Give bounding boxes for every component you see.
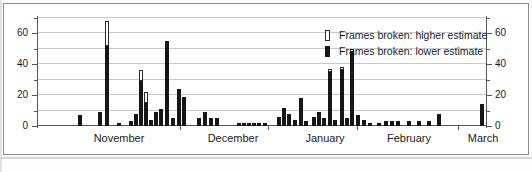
bar-lower-estimate <box>277 117 281 126</box>
month-boundary-tick <box>458 126 459 130</box>
bar-lower-estimate <box>209 118 213 126</box>
month-boundary-tick <box>180 126 181 130</box>
bar-lower-estimate <box>345 118 349 126</box>
bar-lower-estimate <box>257 123 261 126</box>
bar-lower-estimate <box>362 120 366 126</box>
bar-lower-estimate <box>105 46 109 126</box>
bar-lower-estimate <box>293 120 297 126</box>
bar-lower-estimate <box>317 112 321 126</box>
bar-lower-estimate <box>139 81 143 126</box>
bar-lower-estimate <box>182 97 186 126</box>
bar-lower-estimate <box>340 70 344 126</box>
bar-lower-estimate <box>287 114 291 126</box>
y-tick <box>487 111 490 112</box>
y-tick <box>32 126 37 127</box>
y-tick <box>32 95 37 96</box>
bar-lower-estimate <box>427 121 431 126</box>
bar-lower-estimate <box>390 121 394 126</box>
month-label-february: February <box>387 132 431 144</box>
bar-lower-estimate <box>159 109 163 126</box>
bar-lower-estimate <box>203 112 207 126</box>
bar-lower-estimate <box>215 118 219 126</box>
month-label-march: March <box>468 132 499 144</box>
month-boundary-tick <box>268 126 269 130</box>
bar-lower-estimate <box>247 123 251 126</box>
bar-lower-estimate <box>144 103 148 126</box>
bar-lower-estimate <box>165 41 169 126</box>
y-tick <box>487 18 490 19</box>
bar-lower-estimate <box>304 121 308 126</box>
bar-lower-estimate <box>98 112 102 126</box>
figure-bottom-edge <box>0 157 532 159</box>
legend-item-lower: Frames broken: lower estimate <box>325 44 500 58</box>
bar-lower-estimate <box>437 114 441 126</box>
bar-lower-estimate <box>242 123 246 126</box>
month-boundary-tick <box>357 126 358 130</box>
bar-lower-estimate <box>134 114 138 126</box>
bar-lower-estimate <box>333 120 337 126</box>
bar-higher-estimate <box>144 92 148 103</box>
bar-lower-estimate <box>154 112 158 126</box>
y-tick-label: 20 <box>495 90 506 100</box>
bar-higher-estimate <box>139 70 143 81</box>
y-tick-label: 40 <box>17 59 28 69</box>
gridline <box>37 17 486 18</box>
chart-figure: 00202040406060 NovemberDecemberJanuaryFe… <box>0 0 532 172</box>
bar-lower-estimate <box>328 72 332 126</box>
y-tick <box>34 80 37 81</box>
bar-lower-estimate <box>368 123 372 126</box>
bar-lower-estimate <box>78 115 82 126</box>
month-label-december: December <box>208 132 259 144</box>
y-tick <box>34 18 37 19</box>
bar-lower-estimate <box>197 118 201 126</box>
y-tick-label: 40 <box>495 59 506 69</box>
y-axis-left <box>37 16 38 128</box>
y-tick <box>487 64 492 65</box>
bar-lower-estimate <box>282 108 286 127</box>
legend: Frames broken: higher estimate Frames br… <box>325 28 500 60</box>
y-tick <box>34 49 37 50</box>
y-tick <box>32 64 37 65</box>
bar-lower-estimate <box>322 118 326 126</box>
y-tick <box>487 95 492 96</box>
y-tick <box>32 33 37 34</box>
bar-lower-estimate <box>480 104 484 126</box>
y-tick-label: 0 <box>495 121 501 131</box>
figure-left-edge <box>0 0 2 172</box>
legend-label-lower-estimate: Frames broken: lower estimate <box>339 45 483 57</box>
bar-lower-estimate <box>117 123 121 126</box>
legend-swatch-lower-estimate-icon <box>325 46 330 57</box>
bar-lower-estimate <box>396 121 400 126</box>
y-tick <box>34 111 37 112</box>
month-label-january: January <box>305 132 344 144</box>
bar-lower-estimate <box>129 121 133 126</box>
bar-lower-estimate <box>177 89 181 126</box>
legend-label-higher-estimate: Frames broken: higher estimate <box>339 29 487 41</box>
month-label-november: November <box>94 132 145 144</box>
y-tick-label: 20 <box>17 90 28 100</box>
y-tick-label: 0 <box>22 121 28 131</box>
bar-lower-estimate <box>312 117 316 126</box>
y-tick <box>487 80 490 81</box>
y-tick <box>487 126 492 127</box>
bar-higher-estimate <box>105 21 109 46</box>
bar-lower-estimate <box>149 120 153 126</box>
bar-lower-estimate <box>237 123 241 126</box>
legend-swatch-higher-estimate-icon <box>325 30 330 41</box>
bar-lower-estimate <box>350 52 354 126</box>
bar-lower-estimate <box>407 121 411 126</box>
bar-lower-estimate <box>377 123 381 126</box>
bar-lower-estimate <box>263 123 267 126</box>
bar-lower-estimate <box>299 98 303 126</box>
bar-lower-estimate <box>384 121 388 126</box>
bar-lower-estimate <box>356 115 360 126</box>
bar-lower-estimate <box>171 118 175 126</box>
y-tick-label: 60 <box>17 28 28 38</box>
legend-item-higher: Frames broken: higher estimate <box>325 28 500 42</box>
bar-lower-estimate <box>417 121 421 126</box>
bar-lower-estimate <box>252 123 256 126</box>
